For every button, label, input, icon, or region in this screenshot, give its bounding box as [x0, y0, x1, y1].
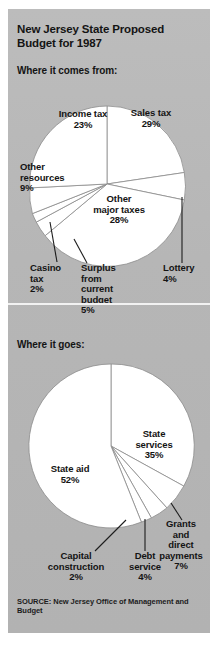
pie-label-state-services: State services 35%	[122, 429, 186, 461]
pie-label-capital-construction: Capital construction 2%	[34, 551, 118, 583]
infographic-panel: New Jersey State Proposed Budget for 198…	[8, 9, 210, 633]
section-divider	[8, 303, 210, 305]
pie-chart-revenue: Income tax 23% Sales tax 29% Other resou…	[8, 77, 210, 301]
pie-label-debt-service: Debt service 4%	[120, 551, 170, 583]
pie-label-state-aid: State aid 52%	[32, 464, 108, 485]
pie-label-other-major-taxes: Other major taxes 28%	[81, 194, 157, 226]
section-label-revenue: Where it comes from:	[17, 65, 117, 76]
page-title: New Jersey State Proposed Budget for 198…	[17, 23, 203, 50]
pie-label-surplus: Surplus from current budget 5%	[81, 263, 127, 316]
pie-label-income-tax: Income tax 23%	[46, 109, 120, 130]
pie-label-casino-tax: Casino tax 2%	[30, 263, 70, 295]
source-note: SOURCE: New Jersey Office of Management …	[17, 597, 203, 615]
section-label-spending: Where it goes:	[17, 339, 85, 350]
pie-chart-spending: State aid 52% State services 35% Grants …	[8, 353, 210, 593]
pie-label-other-resources: Other resources 9%	[20, 162, 86, 194]
pie-label-sales-tax: Sales tax 29%	[119, 108, 183, 129]
pie-label-lottery: Lottery 4%	[163, 263, 207, 284]
